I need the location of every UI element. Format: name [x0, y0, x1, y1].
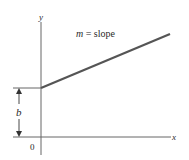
origin-label: 0 — [30, 142, 35, 152]
y-axis-label: y — [38, 12, 43, 22]
slope-variable: m — [76, 28, 83, 39]
intercept-label: b — [16, 106, 22, 118]
slope-annotation: m = slope — [76, 28, 116, 39]
slope-equals-text: = slope — [83, 28, 115, 39]
x-axis-label: x — [171, 132, 176, 142]
slope-line — [41, 34, 170, 88]
slope-intercept-diagram: b 0 x y m = slope — [0, 0, 189, 160]
